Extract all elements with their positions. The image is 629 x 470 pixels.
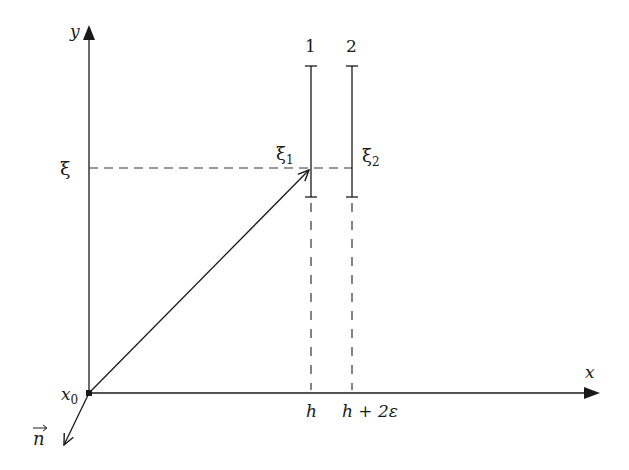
diagram-canvas: y x x0 n ξ 1 ξ1 h: [0, 0, 629, 470]
bar-1-number-label: 1: [305, 36, 316, 56]
bar-1: [305, 66, 317, 390]
bar-2: [346, 66, 358, 390]
y-axis-arrow-icon: [83, 25, 95, 40]
bar-1-xi-label: ξ1: [276, 143, 294, 167]
diagram-svg: y x x0 n ξ 1 ξ1 h: [0, 0, 629, 470]
y-axis: [83, 25, 95, 393]
xi-label: ξ: [60, 157, 70, 179]
bar-2-x-label: h + 2ε: [342, 401, 398, 421]
x-axis: [89, 387, 600, 399]
normal-vector-label: n: [33, 428, 45, 449]
origin-label: x0: [61, 384, 78, 407]
position-vector-arrow: [89, 170, 309, 393]
bar-2-number-label: 2: [346, 36, 357, 56]
x-axis-label: x: [585, 362, 595, 382]
bar-1-x-label: h: [306, 401, 317, 421]
y-axis-label: y: [69, 21, 80, 41]
bar-2-xi-label: ξ2: [362, 145, 380, 169]
x-axis-arrow-icon: [584, 387, 600, 399]
